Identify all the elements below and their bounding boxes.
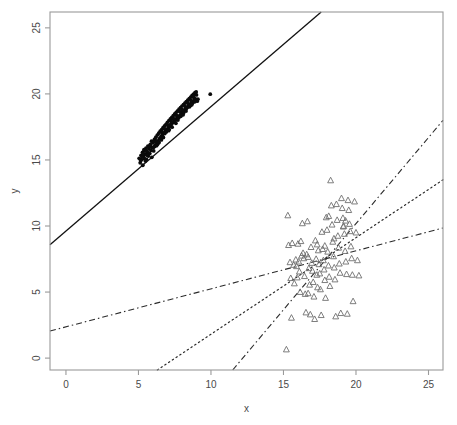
data-point-dot xyxy=(193,100,197,104)
x-tick-label: 15 xyxy=(278,379,290,390)
data-point-dot xyxy=(145,153,149,157)
data-point-triangle xyxy=(291,280,297,286)
x-axis-ticks: 0510152025 xyxy=(63,370,434,390)
data-point-triangle xyxy=(325,262,331,268)
y-tick-label: 5 xyxy=(32,289,43,295)
data-point-triangle xyxy=(341,231,347,237)
series-group-2-open-triangles xyxy=(283,177,361,352)
data-point-triangle xyxy=(343,258,349,264)
data-point-triangle xyxy=(350,298,356,304)
data-point-dot xyxy=(141,163,145,167)
data-point-triangle xyxy=(328,177,334,183)
data-point-triangle xyxy=(339,195,345,201)
data-point-dot xyxy=(180,108,184,112)
data-point-dot xyxy=(196,97,200,101)
data-point-triangle xyxy=(346,207,352,213)
data-point-dot xyxy=(174,121,178,125)
data-point-dot xyxy=(145,149,149,153)
data-point-triangle xyxy=(310,279,316,285)
data-point-triangle xyxy=(288,275,294,281)
y-axis-ticks: 0510152025 xyxy=(32,22,51,361)
data-point-triangle xyxy=(352,198,358,204)
data-point-dot xyxy=(163,132,167,136)
data-point-triangle xyxy=(333,313,339,319)
data-point-dot xyxy=(139,159,143,163)
data-point-triangle xyxy=(289,315,295,321)
x-tick-label: 25 xyxy=(423,379,435,390)
data-point-triangle xyxy=(296,268,302,274)
data-point-triangle xyxy=(349,272,355,278)
data-point-triangle xyxy=(311,293,317,299)
data-point-dot xyxy=(151,146,155,150)
data-point-dot xyxy=(190,103,194,107)
data-point-triangle xyxy=(331,253,337,259)
data-point-triangle xyxy=(338,310,344,316)
data-point-dot xyxy=(152,140,156,144)
data-point-dot xyxy=(147,145,151,149)
data-point-triangle xyxy=(344,311,350,317)
y-tick-label: 0 xyxy=(32,355,43,361)
x-tick-label: 10 xyxy=(205,379,217,390)
data-point-triangle xyxy=(349,255,355,261)
data-point-triangle xyxy=(283,346,289,352)
data-point-triangle xyxy=(339,205,345,211)
data-point-dot xyxy=(183,105,187,109)
data-point-triangle xyxy=(348,243,354,249)
data-point-dot xyxy=(194,90,198,94)
data-point-triangle xyxy=(324,227,330,233)
regression-line-dotted-mid xyxy=(157,180,443,370)
regression-lines-layer xyxy=(50,12,443,370)
data-point-triangle xyxy=(355,257,361,263)
data-point-dot xyxy=(170,120,174,124)
data-point-triangle xyxy=(313,256,319,262)
x-tick-label: 0 xyxy=(63,379,69,390)
data-point-triangle xyxy=(333,201,339,207)
data-point-dot xyxy=(150,155,154,159)
data-point-triangle xyxy=(327,283,333,289)
data-point-triangle xyxy=(356,272,362,278)
data-point-dot xyxy=(167,129,171,133)
data-point-triangle xyxy=(328,202,334,208)
data-point-dot xyxy=(189,99,193,103)
data-point-dot xyxy=(155,144,159,148)
data-point-triangle xyxy=(318,312,324,318)
series-group-1-filled-dots xyxy=(137,90,212,167)
data-point-triangle xyxy=(304,218,310,224)
y-axis-label: y xyxy=(9,189,20,194)
data-point-triangle xyxy=(303,309,309,315)
data-point-triangle xyxy=(353,229,359,235)
data-point-triangle xyxy=(330,239,336,245)
data-point-dot xyxy=(191,94,195,98)
data-point-triangle xyxy=(285,212,291,218)
data-point-dot xyxy=(181,113,185,117)
x-axis-label: x xyxy=(244,403,249,414)
data-point-dot xyxy=(177,116,181,120)
plot-canvas: 0510152025 0510152025 x y xyxy=(0,0,457,425)
regression-line-solid xyxy=(50,12,321,245)
regression-line-dashdot-shallow xyxy=(50,228,443,331)
data-point-triangle xyxy=(334,217,340,223)
data-point-triangle xyxy=(336,260,342,266)
data-points-layer xyxy=(137,90,362,352)
y-tick-label: 20 xyxy=(32,88,43,100)
data-point-triangle xyxy=(289,240,295,246)
data-point-triangle xyxy=(337,270,343,276)
data-point-triangle xyxy=(308,244,314,250)
x-tick-label: 5 xyxy=(136,379,142,390)
data-point-dot xyxy=(141,152,145,156)
data-point-triangle xyxy=(298,238,304,244)
data-point-triangle xyxy=(314,241,320,247)
x-tick-label: 20 xyxy=(350,379,362,390)
y-tick-label: 15 xyxy=(32,154,43,166)
data-point-triangle xyxy=(326,274,332,280)
y-tick-label: 25 xyxy=(32,22,43,34)
data-point-triangle xyxy=(297,289,303,295)
data-point-dot xyxy=(159,138,163,142)
data-point-triangle xyxy=(344,271,350,277)
data-point-triangle xyxy=(342,248,348,254)
data-point-triangle xyxy=(332,276,338,282)
data-point-dot xyxy=(184,109,188,113)
data-point-dot xyxy=(162,127,166,131)
data-point-triangle xyxy=(323,295,329,301)
data-point-triangle xyxy=(345,197,351,203)
